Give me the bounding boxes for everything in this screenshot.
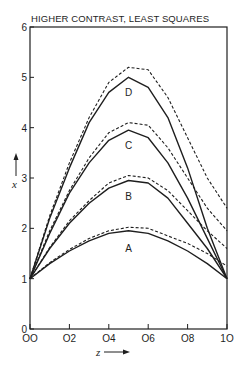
arrow-right-icon-head (123, 350, 130, 355)
y-axis-label: x (11, 153, 19, 190)
x-axis-label: z (95, 346, 130, 358)
curve-labels: DCBA (125, 87, 132, 254)
y-tick-label: 1 (21, 274, 27, 285)
x-tick-label: O4 (102, 333, 116, 344)
curve-a-solid (30, 231, 227, 279)
y-tick-label: 3 (21, 173, 27, 184)
y-tick-label: 6 (21, 22, 27, 33)
x-axis: OOO2O4O6O81O (22, 324, 234, 344)
y-axis-title: x (11, 178, 17, 190)
y-axis: 0123456 (21, 22, 34, 335)
x-tick-label: O2 (63, 333, 77, 344)
arrow-up-icon-head (14, 153, 19, 160)
y-tick-label: 5 (21, 72, 27, 83)
x-tick-label: 1O (220, 333, 234, 344)
x-tick-label: OO (22, 333, 38, 344)
curve-label-a: A (125, 243, 132, 254)
curve-label-d: D (125, 87, 132, 98)
chart-title: HIGHER CONTRAST, LEAST SQUARES (31, 13, 209, 24)
x-axis-title: z (95, 346, 101, 358)
curve-label-c: C (125, 140, 132, 151)
plot-frame (30, 27, 227, 329)
x-tick-label: O6 (142, 333, 156, 344)
chart: HIGHER CONTRAST, LEAST SQUARES 0123456 O… (0, 0, 245, 373)
y-tick-label: 4 (21, 123, 27, 134)
y-tick-label: 2 (21, 223, 27, 234)
x-tick-label: O8 (181, 333, 195, 344)
curve-label-b: B (125, 191, 132, 202)
